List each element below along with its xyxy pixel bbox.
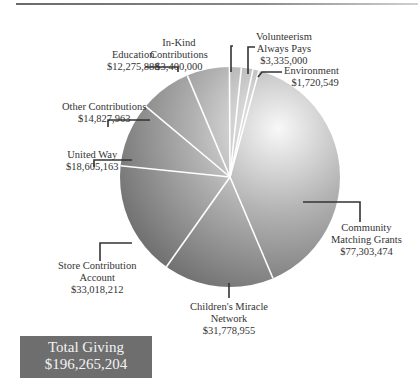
label-environment: Environment $1,720,549	[284, 65, 339, 89]
label-store-contribution: Store Contribution Account $33,018,212	[58, 260, 136, 296]
label-value: $33,018,212	[58, 284, 136, 296]
label-value: $12,275,888	[107, 61, 160, 73]
label-line: Store Contribution	[58, 260, 136, 272]
total-giving-title: Total Giving	[20, 339, 152, 356]
label-line: United Way	[66, 149, 119, 161]
label-value: $31,778,955	[190, 325, 268, 337]
label-other-contributions: Other Contributions $14,827,963	[62, 101, 146, 125]
label-value: $1,720,549	[284, 77, 339, 89]
label-line: In-Kind	[150, 37, 208, 49]
label-line: Environment	[284, 65, 339, 77]
label-line: Children's Miracle	[190, 301, 268, 313]
total-giving-amount: $196,265,204	[20, 356, 152, 373]
label-childrens-miracle: Children's Miracle Network $31,778,955	[190, 301, 268, 337]
pie-slices	[120, 67, 340, 287]
label-line: Network	[190, 313, 268, 325]
label-education: Education $12,275,888	[107, 49, 160, 73]
label-volunteerism: Volunteerism Always Pays $3,335,000	[256, 31, 312, 67]
label-line: Always Pays	[256, 43, 312, 55]
label-community-matching: Community Matching Grants $77,303,474	[331, 222, 402, 258]
label-line: Account	[58, 272, 136, 284]
label-line: Community	[331, 222, 402, 234]
slice-divider	[229, 67, 230, 177]
total-giving-box: Total Giving $196,265,204	[20, 336, 152, 378]
label-value: $18,605,163	[66, 161, 119, 173]
label-line: Volunteerism	[256, 31, 312, 43]
label-value: $77,303,474	[331, 246, 402, 258]
label-line: Education	[107, 49, 160, 61]
label-line: Matching Grants	[331, 234, 402, 246]
label-line: Other Contributions	[62, 101, 146, 113]
label-value: $14,827,963	[62, 113, 146, 125]
label-united-way: United Way $18,605,163	[66, 149, 119, 173]
